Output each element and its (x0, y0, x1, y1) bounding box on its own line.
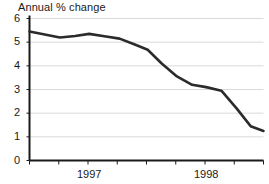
annual-percent-change-chart: Annual % change 0123456 19971998 (0, 0, 269, 184)
y-tick-label: 3 (6, 84, 20, 95)
chart-plot-area (0, 0, 269, 184)
y-tick-label: 1 (6, 131, 20, 142)
x-tick-label: 1997 (69, 169, 109, 180)
x-tick-label: 1998 (186, 169, 226, 180)
y-tick-label: 4 (6, 60, 20, 71)
y-tick-label: 0 (6, 155, 20, 166)
data-series-line (30, 32, 264, 131)
y-tick-label: 5 (6, 36, 20, 47)
y-tick-label: 2 (6, 107, 20, 118)
y-tick-label: 6 (6, 13, 20, 24)
